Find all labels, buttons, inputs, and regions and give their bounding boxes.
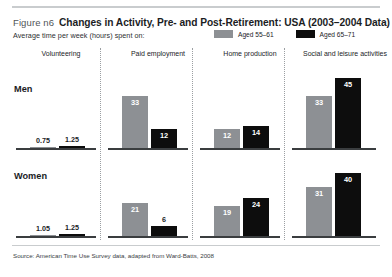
- bar-men-volunteering-aged-55-61: 0.75: [30, 147, 56, 148]
- column-divider-3: [284, 48, 285, 240]
- bar-women-social-leisure-aged-65-71: 40: [335, 173, 361, 236]
- column-divider-2: [192, 48, 193, 240]
- top-rule: [12, 6, 380, 8]
- bar-value-label: 14: [243, 128, 269, 137]
- bar-men-home-production-aged-55-61: 12: [214, 129, 240, 148]
- axis-baseline: [200, 236, 280, 238]
- figure-source: Source: American Time Use Survey data, a…: [13, 252, 214, 259]
- bar-value-label: 12: [151, 131, 177, 140]
- legend-label-aged-55-61: Aged 55–61: [238, 31, 274, 38]
- axis-baseline: [200, 148, 280, 150]
- plot-men-social-leisure: 33 45: [292, 78, 376, 150]
- figure-container: Figure n6Changes in Activity, Pre- and P…: [0, 0, 392, 277]
- axis-baseline: [108, 236, 188, 238]
- bar-value-label: 24: [243, 200, 269, 209]
- axis-baseline: [292, 236, 376, 238]
- bar-value-label: 12: [214, 131, 240, 140]
- bar-women-paid-employment-aged-55-61: 21: [122, 203, 148, 236]
- bar-men-social-leisure-aged-55-61: 33: [306, 96, 332, 148]
- category-headers: Volunteering Paid employment Home produc…: [12, 50, 380, 74]
- bar-value-label: 33: [122, 98, 148, 107]
- category-header-paid-employment: Paid employment: [114, 50, 202, 59]
- category-header-social-leisure: Social and leisure activities: [298, 50, 392, 59]
- legend-swatch-aged-65-71: [296, 30, 315, 38]
- legend-item-aged-55-61: Aged 55–61: [214, 30, 274, 38]
- plot-women-paid-employment: 21 6: [108, 166, 188, 238]
- bar-value-label: 19: [214, 208, 240, 217]
- bar-value-label: 31: [306, 189, 332, 198]
- category-header-home-production: Home production: [206, 50, 294, 59]
- column-divider-1: [100, 48, 101, 240]
- bar-women-home-production-aged-65-71: 24: [243, 198, 269, 236]
- bar-men-home-production-aged-65-71: 14: [243, 126, 269, 148]
- chart-legend: Aged 55–61 Aged 65–71: [214, 30, 355, 38]
- legend-label-aged-65-71: Aged 65–71: [320, 31, 356, 38]
- bar-value-label: 40: [335, 175, 361, 184]
- bottom-rule: [12, 245, 380, 246]
- bar-women-social-leisure-aged-55-61: 31: [306, 187, 332, 236]
- bar-value-label: 45: [335, 80, 361, 89]
- bar-value-label: 1.05: [30, 224, 56, 233]
- category-header-volunteering: Volunteering: [12, 50, 110, 59]
- plot-women-home-production: 19 24: [200, 166, 280, 238]
- plot-men-volunteering: 0.75 1.25: [16, 78, 96, 150]
- axis-baseline: [16, 236, 96, 238]
- axis-baseline: [16, 148, 96, 150]
- bar-value-label: 0.75: [30, 136, 56, 145]
- bar-value-label: 1.25: [59, 135, 85, 144]
- bar-value-label: 1.25: [59, 223, 85, 232]
- plot-men-paid-employment: 33 12: [108, 78, 188, 150]
- bar-women-home-production-aged-55-61: 19: [214, 206, 240, 236]
- plot-men-home-production: 12 14: [200, 78, 280, 150]
- legend-swatch-aged-55-61: [214, 30, 233, 38]
- bar-men-social-leisure-aged-65-71: 45: [335, 78, 361, 148]
- plot-women-social-leisure: 31 40: [292, 166, 376, 238]
- bar-women-volunteering-aged-55-61: 1.05: [30, 235, 56, 237]
- axis-baseline: [108, 148, 188, 150]
- bar-men-paid-employment-aged-55-61: 33: [122, 96, 148, 148]
- figure-subtitle: Average time per week (hours) spent on:: [13, 31, 145, 40]
- bar-women-paid-employment-aged-65-71: 6: [151, 226, 177, 236]
- figure-title: Changes in Activity, Pre- and Post-Retir…: [59, 17, 390, 28]
- bar-men-paid-employment-aged-65-71: 12: [151, 129, 177, 148]
- legend-item-aged-65-71: Aged 65–71: [296, 30, 356, 38]
- axis-baseline: [292, 148, 376, 150]
- bar-value-label: 21: [122, 205, 148, 214]
- figure-header: Figure n6Changes in Activity, Pre- and P…: [13, 12, 382, 30]
- bar-value-label: 33: [306, 98, 332, 107]
- plot-women-volunteering: 1.05 1.25: [16, 166, 96, 238]
- bar-value-label: 6: [151, 215, 177, 224]
- bar-women-volunteering-aged-65-71: 1.25: [59, 234, 85, 236]
- bar-men-volunteering-aged-65-71: 1.25: [59, 146, 85, 148]
- figure-number: Figure n6: [13, 17, 54, 28]
